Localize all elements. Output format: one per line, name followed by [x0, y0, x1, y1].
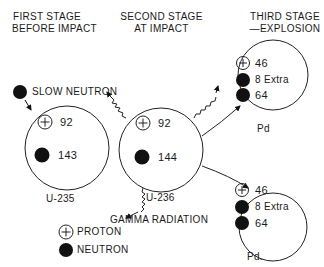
u235-label: U-235	[46, 193, 75, 205]
neutron-icon	[235, 200, 249, 214]
pd2-proton-count: 46	[255, 184, 268, 196]
legend-proton-label: PROTON	[77, 226, 121, 238]
stage3-title: THIRD STAGE —EXPLOSION	[249, 11, 321, 35]
u235-neutron-count: 143	[58, 149, 77, 161]
stage1-title-line1: FIRST STAGE	[12, 11, 82, 23]
pd1-extra-neutrons: 8 Extra	[255, 74, 289, 86]
pd2-neutron-count: 64	[255, 217, 268, 229]
fission-diagram: FIRST STAGE BEFORE IMPACT SECOND STAGE A…	[0, 0, 324, 267]
neutron-path-wavy	[110, 96, 126, 118]
stage1-title: FIRST STAGE BEFORE IMPACT	[12, 11, 82, 35]
stage1-title-line2: BEFORE IMPACT	[12, 23, 82, 35]
legend-proton-icon	[59, 225, 73, 239]
pd2-label: Pd.	[247, 251, 263, 263]
neutron-icon	[236, 88, 250, 102]
pd2-extra-neutrons: 8 Extra	[255, 201, 289, 213]
gamma-radiation-label: GAMMA RADIATION	[110, 214, 208, 226]
split-arrow-bottom	[202, 166, 248, 188]
stage2-title-line2: AT IMPACT	[119, 23, 204, 35]
u236-neutron-count: 144	[158, 151, 177, 163]
u235-proton-count: 92	[60, 116, 73, 128]
stage3-title-line1: THIRD STAGE	[249, 11, 321, 23]
pd1-proton-count: 46	[255, 57, 268, 69]
proton-icon	[38, 115, 52, 129]
u236-label: U-236	[146, 192, 175, 204]
stage3-title-line2: —EXPLOSION	[249, 23, 321, 35]
slow-neutron-label: SLOW NEUTRON	[32, 86, 117, 98]
neutron-icon	[235, 216, 249, 230]
pd1-label: Pd	[257, 123, 270, 135]
proton-icon	[136, 116, 150, 130]
stage2-title-line1: SECOND STAGE	[119, 11, 204, 23]
neutron-icon	[236, 73, 250, 87]
legend-neutron-label: NEUTRON	[77, 244, 129, 256]
legend-neutron-icon	[59, 243, 73, 257]
neutron-icon	[135, 150, 150, 165]
nucleus-pd-bottom	[235, 184, 307, 262]
diagram-graphics	[0, 0, 324, 267]
proton-icon	[237, 57, 250, 70]
gamma-wavy	[141, 188, 145, 212]
emission-wavy-up	[194, 97, 216, 118]
u236-proton-count: 92	[158, 117, 171, 129]
slow-neutron-icon	[13, 85, 27, 99]
proton-icon	[236, 184, 249, 197]
neutron-icon	[35, 148, 50, 163]
stage2-title: SECOND STAGE AT IMPACT	[119, 11, 204, 35]
impact-arrow	[25, 100, 31, 110]
split-arrow-top	[202, 106, 240, 136]
pd1-neutron-count: 64	[255, 89, 268, 101]
